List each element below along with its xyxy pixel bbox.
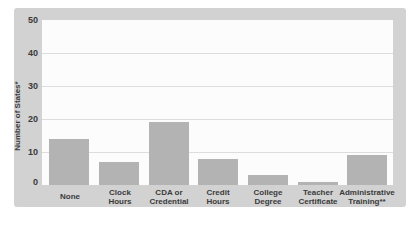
- gridline-10: [42, 152, 393, 153]
- bar-college-degree: [248, 175, 288, 185]
- bar-credit-hours: [198, 159, 238, 185]
- y-tick-50: 50: [0, 15, 38, 25]
- bar-administrative-training: [347, 155, 387, 185]
- y-tick-40: 40: [0, 48, 38, 58]
- x-tick-administrative-training: Administrative Training**: [327, 186, 407, 207]
- bar-cda-or-credential: [149, 122, 189, 185]
- gridline-30: [42, 86, 393, 87]
- y-tick-30: 30: [0, 81, 38, 91]
- bar-chart-figure: Number of States* 50 40 30 20 10 0 None …: [0, 0, 420, 225]
- bar-none: [49, 139, 89, 185]
- bar-teacher-certificate: [298, 182, 338, 185]
- plot-area: [42, 20, 393, 185]
- gridline-40: [42, 53, 393, 54]
- y-tick-10: 10: [0, 147, 38, 157]
- gridline-20: [42, 119, 393, 120]
- y-tick-20: 20: [0, 114, 38, 124]
- bar-clock-hours: [99, 162, 139, 185]
